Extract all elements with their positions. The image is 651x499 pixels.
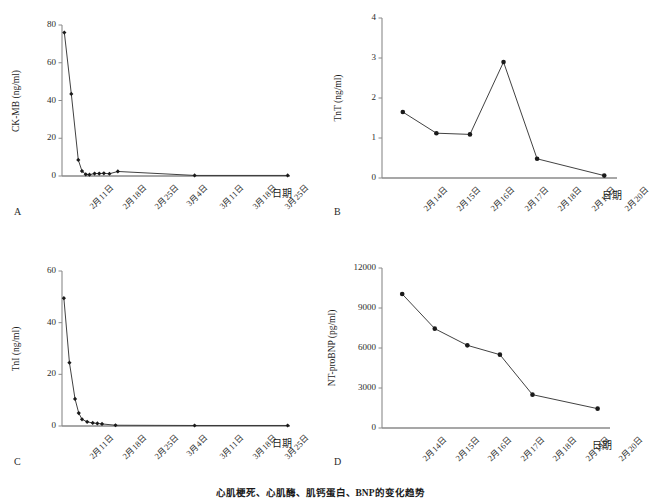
data-point [501, 60, 506, 65]
y-tick-label: 0 [52, 420, 57, 430]
chart-panel-a: A 020406080CK-MB (ng/ml)2月11日2月18日2月25日3… [0, 0, 320, 249]
data-point [85, 420, 89, 424]
data-point [95, 421, 99, 425]
data-point [434, 131, 439, 136]
chart-panel-b: B 01234TnT (ng/ml)2月14日2月15日2月16日2月17日2月… [320, 0, 640, 249]
plot-area-a [0, 0, 320, 249]
y-tick-label: 40 [47, 317, 56, 327]
data-point [286, 173, 290, 177]
y-tick-label: 40 [47, 95, 56, 105]
y-axis-title: TnT (ng/ml) [333, 74, 343, 121]
data-point [468, 132, 473, 137]
data-point [97, 171, 101, 175]
y-axis-title: NT-proBNP (pg/ml) [327, 310, 337, 387]
data-point [400, 292, 405, 297]
x-axis-title: 日期 [592, 437, 612, 452]
x-axis-title: 日期 [602, 187, 622, 202]
data-point [116, 169, 120, 173]
data-point [193, 173, 197, 177]
y-tick-label: 3 [372, 52, 377, 62]
y-axis-title: TnI (ng/ml) [11, 326, 21, 371]
figure-caption: 心肌梗死、心肌酶、肌钙蛋白、BNP的变化趋势 [0, 486, 640, 499]
data-point [62, 30, 66, 34]
data-point [73, 397, 77, 401]
y-tick-label: 0 [372, 172, 377, 182]
y-tick-label: 4 [372, 12, 377, 22]
y-tick-label: 12000 [354, 262, 377, 272]
data-point [432, 326, 437, 331]
data-point [595, 406, 600, 411]
y-tick-label: 80 [47, 19, 56, 29]
data-point [535, 157, 540, 162]
y-axis-title: CK-MB (ng/ml) [11, 69, 21, 131]
y-tick-label: 1 [372, 132, 377, 142]
x-axis-title: 日期 [272, 435, 292, 450]
y-tick-label: 9000 [358, 302, 376, 312]
series-line [64, 298, 288, 425]
y-tick-label: 3000 [358, 382, 376, 392]
y-tick-label: 20 [47, 368, 56, 378]
data-point [465, 343, 470, 348]
data-point [80, 417, 84, 421]
chart-panel-d: D 030006000900012000NT-proBNP (pg/ml)2月1… [320, 250, 640, 499]
data-point [107, 172, 111, 176]
data-point [530, 392, 535, 397]
data-point [498, 352, 503, 357]
data-point [193, 423, 197, 427]
plot-area-b [320, 0, 640, 249]
y-tick-label: 60 [47, 265, 56, 275]
data-point [602, 173, 607, 178]
y-tick-label: 60 [47, 57, 56, 67]
y-tick-label: 0 [372, 422, 377, 432]
data-point [69, 92, 73, 96]
data-point [102, 171, 106, 175]
series-line [64, 33, 287, 176]
data-point [76, 158, 80, 162]
data-point [77, 411, 81, 415]
data-point [67, 361, 71, 365]
data-point [401, 110, 406, 115]
y-tick-label: 2 [372, 92, 377, 102]
y-tick-label: 6000 [358, 342, 376, 352]
series-line [403, 62, 604, 176]
data-point [286, 423, 290, 427]
y-tick-label: 0 [52, 170, 57, 180]
chart-panel-c: C 0204060TnI (ng/ml)2月11日2月18日2月25日3月4日3… [0, 250, 320, 499]
y-tick-label: 20 [47, 132, 56, 142]
data-point [91, 421, 95, 425]
x-axis-title: 日期 [272, 185, 292, 200]
data-point [92, 171, 96, 175]
series-line [402, 294, 597, 409]
